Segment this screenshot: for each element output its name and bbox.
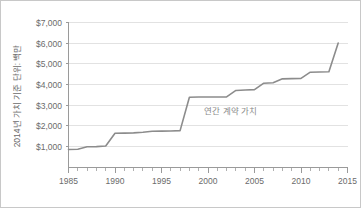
line-chart: $7,000 $6,000 $5,000 $4,000 $3,000 $2,00… <box>1 1 361 208</box>
x-tick-label-2015: 2015 <box>338 176 357 186</box>
series-line-annual-contract-value <box>69 43 339 149</box>
y-axis <box>66 23 69 168</box>
x-tick-label-1985: 1985 <box>59 176 78 186</box>
y-tick-label-7000: $7,000 <box>36 18 62 28</box>
x-tick-label-2010: 2010 <box>292 176 311 186</box>
x-tick-label-2005: 2005 <box>245 176 264 186</box>
series-annotation-label: 연간 계약 가치 <box>204 106 257 116</box>
y-tick-label-6000: $6,000 <box>36 39 62 49</box>
chart-figure: $7,000 $6,000 $5,000 $4,000 $3,000 $2,00… <box>0 0 361 208</box>
y-tick-labels: $7,000 $6,000 $5,000 $4,000 $3,000 $2,00… <box>36 18 62 152</box>
x-tick-label-1995: 1995 <box>152 176 171 186</box>
x-tick-label-2000: 2000 <box>199 176 218 186</box>
x-axis <box>69 168 348 173</box>
y-tick-label-2000: $2,000 <box>36 121 62 131</box>
x-tick-label-1990: 1990 <box>106 176 125 186</box>
x-tick-labels: 1985 1990 1995 2000 2005 2010 2015 <box>59 176 357 186</box>
data-series-group <box>69 43 339 149</box>
y-tick-label-4000: $4,000 <box>36 80 62 90</box>
y-axis-title: 2014년 가치 기준 단위: 백만 <box>12 45 22 148</box>
gridlines <box>69 23 348 147</box>
y-tick-label-1000: $1,000 <box>36 142 62 152</box>
y-tick-label-5000: $5,000 <box>36 59 62 69</box>
y-tick-label-3000: $3,000 <box>36 101 62 111</box>
